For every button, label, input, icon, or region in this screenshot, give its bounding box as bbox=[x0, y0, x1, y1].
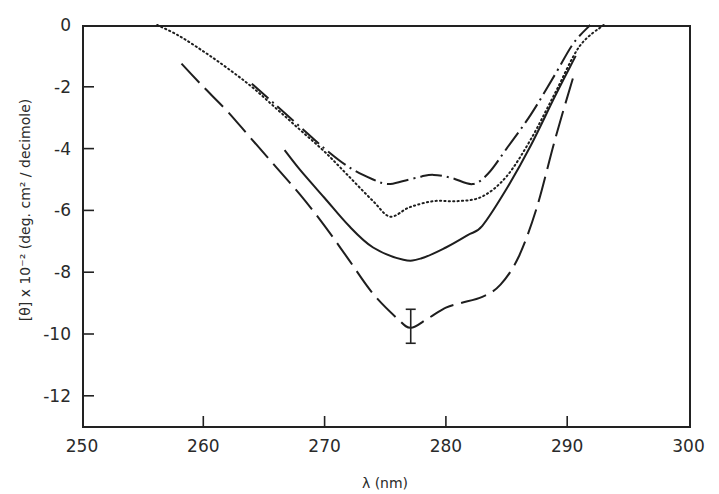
x-tick-label: 280 bbox=[430, 436, 462, 456]
y-tick-label: -6 bbox=[54, 200, 71, 220]
x-axis-label: λ (nm) bbox=[362, 475, 408, 491]
cd-spectrum-chart: 2502602702802903000-2-4-6-8-10-12 λ (nm)… bbox=[0, 0, 719, 494]
y-tick-label: -8 bbox=[54, 262, 71, 282]
y-tick-label: -10 bbox=[43, 324, 71, 344]
y-tick-label: 0 bbox=[60, 15, 71, 35]
x-tick-label: 290 bbox=[551, 436, 583, 456]
y-tick-label: -2 bbox=[54, 77, 71, 97]
x-tick-label: 250 bbox=[66, 436, 98, 456]
plot-border bbox=[83, 26, 690, 427]
x-tick-label: 270 bbox=[308, 436, 340, 456]
series-longdash bbox=[182, 64, 575, 328]
data-series bbox=[157, 25, 603, 328]
plot-frame bbox=[83, 26, 690, 427]
y-tick-label: -12 bbox=[43, 386, 71, 406]
series-dashdot bbox=[252, 25, 590, 184]
series-dotted bbox=[157, 25, 603, 217]
y-tick-label: -4 bbox=[54, 139, 71, 159]
axis-ticks: 2502602702802903000-2-4-6-8-10-12 bbox=[43, 15, 705, 456]
y-axis-label: [θ] x 10⁻² (deg. cm² / decimole) bbox=[17, 99, 33, 322]
x-tick-label: 300 bbox=[672, 436, 704, 456]
x-tick-label: 260 bbox=[187, 436, 219, 456]
